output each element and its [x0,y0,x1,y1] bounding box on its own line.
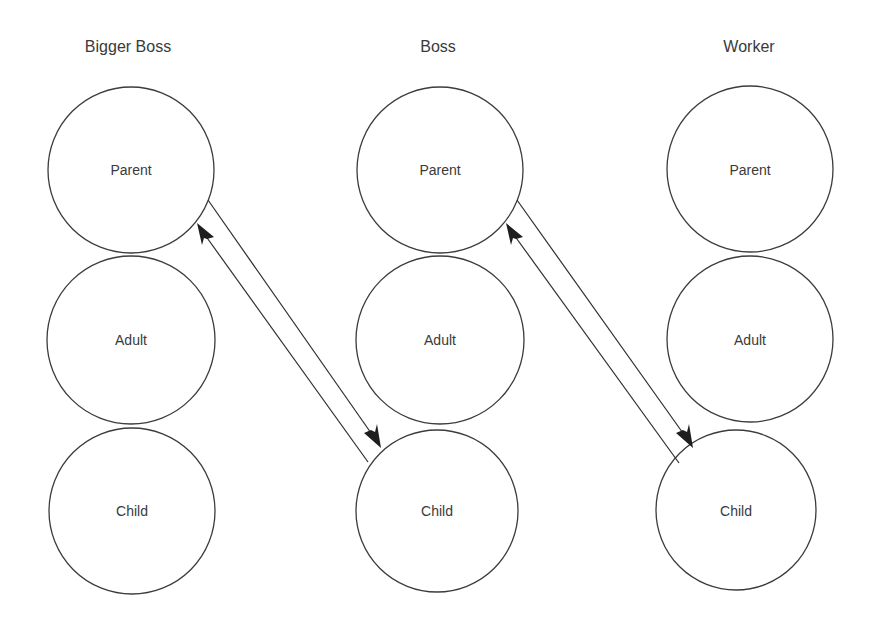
column-bigger-boss: Parent Adult Child [47,87,215,594]
column-boss: Parent Adult Child [356,87,524,592]
node-label: Child [720,503,752,519]
arrow-line-up [200,228,368,462]
arrow-line-down [517,200,690,443]
arrow-line-down [208,200,378,443]
node-label: Child [421,503,453,519]
node-label: Parent [110,162,151,178]
node-label: Adult [115,332,147,348]
column-title-boss: Boss [420,38,456,55]
arrow-line-up [509,228,679,463]
node-label: Parent [419,162,460,178]
node-label: Parent [729,162,770,178]
transaction-bigger-boss-to-boss [197,200,381,462]
arrowhead-up-icon [197,223,214,245]
column-title-bigger-boss: Bigger Boss [85,38,171,55]
column-worker: Parent Adult Child [656,86,833,590]
ego-state-diagram: Bigger Boss Boss Worker Parent Adult Chi… [0,0,881,637]
arrowhead-up-icon [506,223,523,245]
column-title-worker: Worker [723,38,775,55]
node-label: Adult [424,332,456,348]
transaction-boss-to-worker [506,200,693,463]
node-label: Adult [734,332,766,348]
node-label: Child [116,503,148,519]
